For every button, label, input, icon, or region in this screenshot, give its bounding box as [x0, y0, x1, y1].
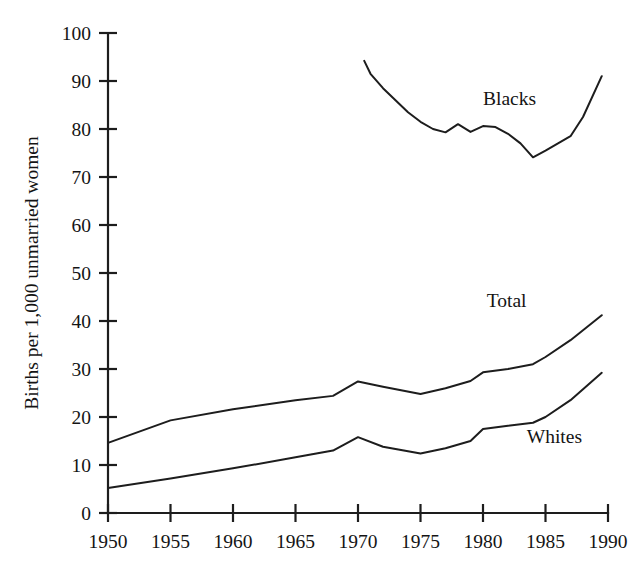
y-tick-label-0: 0	[81, 503, 91, 524]
y-axis-title: Births per 1,000 unmarried women	[21, 136, 42, 410]
y-axis-title-text: Births per 1,000 unmarried women	[21, 136, 42, 410]
series-label-total: Total	[487, 290, 527, 311]
y-tick-label-90: 90	[72, 71, 92, 92]
y-tick-label-70: 70	[72, 167, 92, 188]
x-tick-label-1965: 1965	[276, 531, 315, 552]
y-tick-label-80: 80	[72, 119, 92, 140]
y-tick-label-10: 10	[72, 455, 92, 476]
y-tick-label-50: 50	[72, 263, 92, 284]
y-axis: 0102030405060708090100	[62, 23, 117, 524]
series-label-whites: Whites	[527, 426, 582, 447]
series-line-blacks	[364, 61, 602, 157]
y-tick-label-60: 60	[72, 215, 92, 236]
x-tick-label-1950: 1950	[89, 531, 128, 552]
series-labels: BlacksTotalWhites	[483, 88, 582, 447]
x-tick-label-1990: 1990	[589, 531, 628, 552]
y-tick-label-30: 30	[72, 359, 92, 380]
x-tick-label-1955: 1955	[151, 531, 190, 552]
y-tick-label-40: 40	[72, 311, 92, 332]
x-tick-label-1975: 1975	[401, 531, 440, 552]
line-chart-canvas: 0102030405060708090100 19501955196019651…	[0, 0, 642, 585]
x-tick-label-1970: 1970	[339, 531, 378, 552]
y-tick-label-20: 20	[72, 407, 92, 428]
x-tick-label-1980: 1980	[464, 531, 503, 552]
chart-figure: 0102030405060708090100 19501955196019651…	[0, 0, 642, 585]
x-axis: 195019551960196519701975198019851990	[89, 504, 628, 552]
y-tick-label-100: 100	[62, 23, 91, 44]
x-tick-label-1960: 1960	[214, 531, 253, 552]
series-lines	[108, 61, 602, 488]
x-tick-label-1985: 1985	[526, 531, 565, 552]
series-label-blacks: Blacks	[483, 88, 536, 109]
